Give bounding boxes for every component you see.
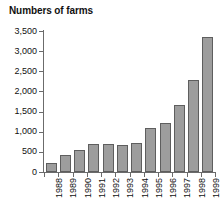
x-axis-tick-mark: [87, 173, 88, 177]
x-axis-tick-label-1991: 1991: [98, 178, 107, 198]
bar-1989: [60, 155, 71, 172]
x-axis-tick-label-1995: 1995: [155, 178, 164, 198]
x-axis-tick-label-1988: 1988: [55, 178, 64, 198]
y-axis-tick-label: 1,000: [0, 127, 37, 136]
x-axis-tick-label-1997: 1997: [183, 178, 192, 198]
bar-1995: [145, 128, 156, 172]
bar-1999: [202, 37, 213, 172]
x-axis-tick-mark: [44, 173, 45, 177]
chart-title: Numbers of farms: [9, 5, 93, 16]
bar-1993: [117, 145, 128, 172]
plot-area: [44, 31, 215, 172]
y-axis-tick-label-text: 2,000: [0, 87, 37, 96]
y-axis-tick-label: 0: [0, 168, 37, 177]
y-axis-tick-label-text: 2,500: [0, 67, 37, 76]
bar-1997: [174, 105, 185, 172]
y-axis-tick-label: 1,500: [0, 107, 37, 116]
x-axis-tick-mark: [73, 173, 74, 177]
y-axis-tick-label-text: 0: [0, 168, 37, 177]
y-axis-tick-label: 3,000: [0, 47, 37, 56]
x-axis-tick-mark: [144, 173, 145, 177]
x-axis-tick-mark: [115, 173, 116, 177]
x-axis-tick-label-1989: 1989: [69, 178, 78, 198]
y-axis-tick-label-text: 3,500: [0, 27, 37, 36]
x-axis-tick-label-1998: 1998: [198, 178, 207, 198]
x-axis-tick-mark: [215, 173, 216, 177]
x-axis-tick-mark: [201, 173, 202, 177]
bar-1990: [74, 150, 85, 172]
bar-1988: [46, 163, 57, 172]
y-axis-tick-label: 2,500: [0, 67, 37, 76]
bar-1994: [131, 143, 142, 172]
bar-chart-figure: Numbers of farms 05001,0001,5002,0002,50…: [0, 0, 221, 204]
x-axis-tick-mark: [101, 173, 102, 177]
y-axis-tick-label-text: 1,000: [0, 127, 37, 136]
x-axis-tick-label-1993: 1993: [126, 178, 135, 198]
x-axis-tick-mark: [187, 173, 188, 177]
bar-1992: [103, 144, 114, 172]
y-axis-tick-label: 2,000: [0, 87, 37, 96]
x-axis-tick-label-1996: 1996: [169, 178, 178, 198]
x-axis-tick-mark: [158, 173, 159, 177]
x-axis-tick-label-1992: 1992: [112, 178, 121, 198]
bar-1991: [88, 144, 99, 172]
y-axis-tick-label: 500: [0, 147, 37, 156]
x-axis-tick-mark: [58, 173, 59, 177]
y-axis-tick-label-text: 1,500: [0, 107, 37, 116]
y-axis-tick-label-text: 500: [0, 147, 37, 156]
x-axis-tick-label-1999: 1999: [212, 178, 221, 198]
x-axis-tick-label-1994: 1994: [141, 178, 150, 198]
x-axis-tick-label-1990: 1990: [84, 178, 93, 198]
x-axis-tick-mark: [172, 173, 173, 177]
y-axis-tick-label: 3,500: [0, 27, 37, 36]
bar-1998: [188, 80, 199, 172]
bar-1996: [160, 123, 171, 172]
y-axis-tick-label-text: 3,000: [0, 47, 37, 56]
x-axis-tick-mark: [130, 173, 131, 177]
